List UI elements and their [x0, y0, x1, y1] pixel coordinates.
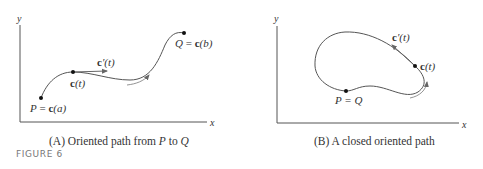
panel-a: y x P = c(a) c(t) c′(t) Q = c(b) — [16, 13, 215, 128]
y-axis-label-b: y — [273, 13, 279, 24]
caption-a-mid: to — [166, 135, 181, 147]
caption-a-p: P — [159, 135, 166, 147]
caption-a-q: Q — [181, 135, 189, 147]
figure-label: FIGURE 6 — [16, 149, 63, 159]
x-axis-label-a: x — [209, 117, 215, 128]
label-c-t-b: c(t) — [420, 60, 436, 73]
tangent-vector-arrow — [73, 71, 107, 72]
orientation-arrow-b — [410, 82, 427, 98]
start-point-p — [39, 96, 43, 100]
y-axis-label-a: y — [16, 13, 22, 24]
label-c-prime-t-b: c′(t) — [392, 31, 410, 44]
point-p-eq-q — [344, 89, 348, 93]
tangent-vector-arrow-b — [392, 45, 415, 66]
caption-b: (B) A closed oriented path — [314, 135, 435, 147]
end-point-q — [182, 31, 186, 35]
caption-a: (A) Oriented path from P to Q — [49, 135, 189, 147]
label-p-eq-c-a: P = c(a) — [29, 102, 67, 115]
caption-a-text: (A) Oriented path from — [49, 135, 159, 147]
x-axis-label-b: x — [461, 119, 467, 130]
label-c-prime-t: c′(t) — [97, 56, 115, 69]
point-c-t — [71, 70, 75, 74]
label-c-t: c(t) — [70, 77, 86, 90]
label-q-eq-c-b: Q = c(b) — [175, 37, 213, 50]
label-p-eq-q: P = Q — [334, 94, 362, 106]
panel-b: y x P = Q c(t) c′(t) — [273, 13, 467, 130]
point-c-t-b — [413, 64, 417, 68]
